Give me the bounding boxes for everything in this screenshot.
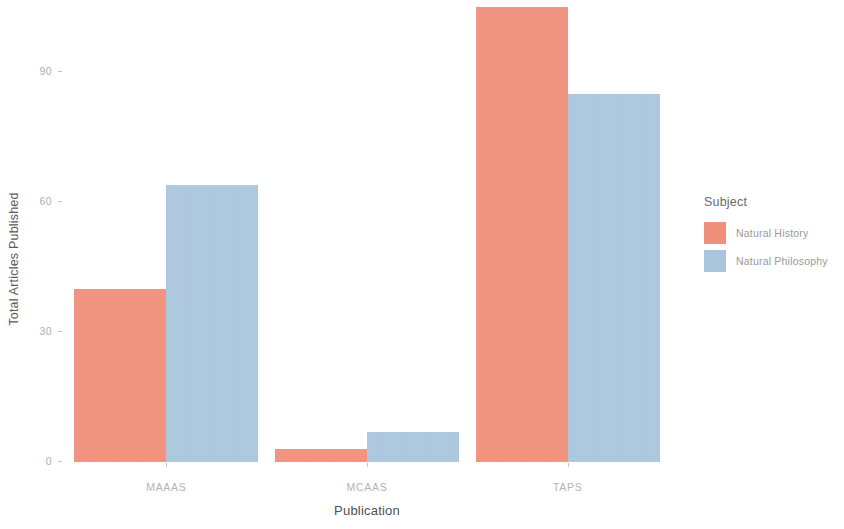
legend: Subject Natural History Natural Philosop… xyxy=(704,195,844,275)
x-axis-tick-label: MCAAS xyxy=(297,481,437,493)
legend-item-label: Natural Philosophy xyxy=(736,255,828,267)
bar-taps-natural-history xyxy=(476,7,568,462)
bar-mcaas-natural-history xyxy=(275,449,367,462)
x-axis-tick-mark xyxy=(367,463,368,467)
y-axis-tick-mark xyxy=(58,331,62,332)
y-axis-tick-label: 0 xyxy=(0,455,52,467)
y-axis-tick-mark xyxy=(58,201,62,202)
bar-maaas-natural-philosophy xyxy=(166,185,258,462)
x-axis-tick-label: TAPS xyxy=(498,481,638,493)
legend-item-natural-philosophy: Natural Philosophy xyxy=(704,247,844,275)
x-axis-tick-label: MAAAS xyxy=(96,481,236,493)
legend-swatch-icon xyxy=(704,222,726,244)
legend-item-label: Natural History xyxy=(736,227,808,239)
bar-maaas-natural-history xyxy=(74,289,166,462)
legend-swatch-icon xyxy=(704,250,726,272)
legend-item-natural-history: Natural History xyxy=(704,219,844,247)
plot-area xyxy=(66,0,668,462)
x-axis-tick-mark xyxy=(166,463,167,467)
y-axis-tick-mark xyxy=(58,71,62,72)
y-axis-tick-label: 60 xyxy=(0,195,52,207)
x-axis-title: Publication xyxy=(66,503,668,518)
x-axis-tick-mark xyxy=(568,463,569,467)
y-axis-tick-label: 90 xyxy=(0,65,52,77)
bar-taps-natural-philosophy xyxy=(568,94,660,462)
bar-chart: Total Articles Published 0306090 MAAASMC… xyxy=(0,0,844,529)
y-axis-tick-mark xyxy=(58,461,62,462)
y-axis-tick-label: 30 xyxy=(0,325,52,337)
legend-title: Subject xyxy=(704,195,844,209)
bar-mcaas-natural-philosophy xyxy=(367,432,459,462)
